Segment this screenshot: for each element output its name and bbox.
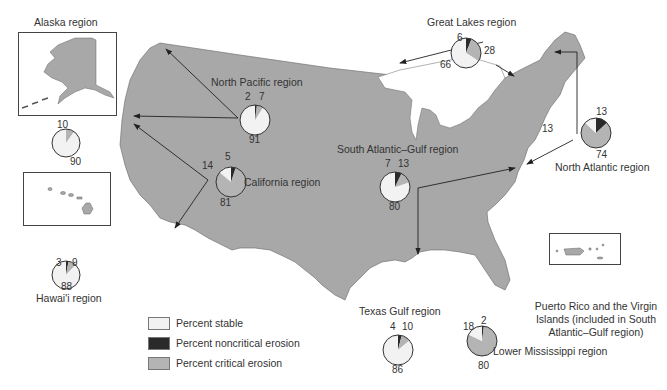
north-pacific-critical-value: 7: [259, 92, 265, 102]
critical-swatch: [148, 357, 170, 370]
coastal-erosion-map: Alaska region Hawai'i region North Pacif…: [0, 0, 667, 390]
north-atlantic-critical-value: 74: [596, 150, 607, 160]
texas-gulf-region-label: Texas Gulf region: [359, 306, 441, 317]
alaska-region-label: Alaska region: [34, 17, 98, 28]
hawaii-stable-value: 88: [61, 282, 72, 292]
california-pie: [216, 167, 246, 197]
south-atlantic-gulf-noncritical-value: 7: [385, 159, 391, 169]
alaska-pie: [52, 129, 80, 157]
legend: Percent stable Percent noncritical erosi…: [148, 313, 300, 373]
lower-mississippi-stable-value: 18: [463, 322, 474, 332]
great-lakes-critical-value: 28: [484, 46, 495, 56]
lower-mississippi-noncritical-value: 2: [481, 316, 487, 326]
north-pacific-pie: [240, 105, 270, 135]
south-atlantic-gulf-stable-value: 80: [389, 202, 400, 212]
legend-label: Percent noncritical erosion: [176, 337, 300, 349]
legend-item-noncritical: Percent noncritical erosion: [148, 333, 300, 353]
puerto-rico-caption: Puerto Rico and the Virgin Islands (incl…: [525, 300, 667, 339]
north-pacific-stable-value: 91: [249, 135, 260, 145]
hawaii-inset: [23, 172, 111, 226]
puerto-rico-inset: [549, 233, 621, 265]
north-atlantic-pie: [581, 118, 611, 148]
great-lakes-pie: [451, 38, 481, 68]
hawaii-region-label: Hawai'i region: [36, 293, 102, 304]
lower-mississippi-region-label: Lower Mississippi region: [493, 346, 607, 357]
alaska-stable-value: 90: [70, 157, 81, 167]
south-atlantic-gulf-pie: [380, 172, 410, 202]
legend-item-stable: Percent stable: [148, 313, 300, 333]
texas-gulf-stable-value: 86: [392, 365, 403, 375]
great-lakes-stable-value: 66: [440, 60, 451, 70]
north-atlantic-region-label: North Atlantic region: [555, 162, 650, 173]
california-region-label: California region: [244, 177, 320, 188]
stable-swatch: [148, 317, 170, 330]
hawaii-noncritical-value: 3: [56, 258, 62, 268]
california-critical-value: 81: [220, 198, 231, 208]
california-stable-value: 14: [202, 161, 213, 171]
north-pacific-region-label: North Pacific region: [211, 77, 303, 88]
south-atlantic-gulf-region-label: South Atlantic–Gulf region: [337, 144, 458, 155]
alaska-inset: [18, 32, 117, 116]
legend-label: Percent critical erosion: [176, 357, 282, 369]
legend-item-critical: Percent critical erosion: [148, 353, 300, 373]
south-atlantic-gulf-critical-value: 13: [398, 159, 409, 169]
texas-gulf-critical-value: 10: [402, 322, 413, 332]
north-pacific-noncritical-value: 2: [245, 92, 251, 102]
texas-gulf-noncritical-value: 4: [390, 322, 396, 332]
north-atlantic-noncritical-value: 13: [596, 107, 607, 117]
hawaii-critical-value: 9: [72, 258, 78, 268]
great-lakes-region-label: Great Lakes region: [427, 17, 516, 28]
lower-mississippi-critical-value: 80: [478, 361, 489, 371]
texas-gulf-pie: [383, 335, 413, 365]
great-lakes-noncritical-value: 6: [457, 33, 463, 43]
legend-label: Percent stable: [176, 317, 243, 329]
alaska-critical-value: 10: [57, 120, 68, 130]
noncritical-swatch: [148, 337, 170, 350]
california-noncritical-value: 5: [225, 152, 231, 162]
north-atlantic-stable-value: 13: [542, 124, 553, 134]
